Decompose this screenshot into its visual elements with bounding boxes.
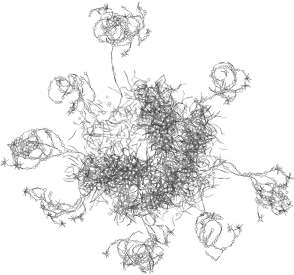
molecular-structure-render bbox=[0, 0, 294, 275]
molecule-viewport bbox=[0, 0, 294, 275]
background bbox=[0, 0, 294, 275]
